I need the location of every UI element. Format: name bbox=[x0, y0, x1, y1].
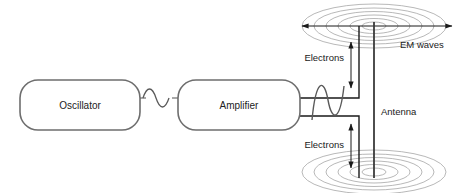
large-signal-wave bbox=[312, 85, 344, 120]
em-waves-label: EM waves bbox=[400, 39, 444, 50]
diagram-canvas: Oscillator Amplifier EM waves Antenna El… bbox=[0, 0, 464, 193]
small-signal-wave bbox=[143, 89, 169, 107]
electrons-label-top: Electrons bbox=[304, 52, 344, 63]
amplifier-label: Amplifier bbox=[220, 100, 260, 111]
antenna-label: Antenna bbox=[381, 106, 417, 117]
diagram-svg: Oscillator Amplifier EM waves Antenna El… bbox=[0, 0, 464, 193]
oscillator-label: Oscillator bbox=[59, 100, 101, 111]
electrons-label-bottom: Electrons bbox=[304, 139, 344, 150]
